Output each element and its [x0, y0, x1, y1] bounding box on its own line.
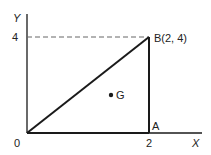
- origin-label: 0: [14, 137, 20, 149]
- point-G-label: G: [116, 89, 125, 101]
- centroid-dot: [109, 93, 113, 97]
- y-tick-4: 4: [12, 31, 18, 43]
- x-tick-2: 2: [146, 137, 152, 149]
- triangle-diagram: Y 4 0 2 X B(2, 4) A G: [0, 0, 211, 155]
- point-B-label: B(2, 4): [154, 32, 187, 44]
- y-axis-label: Y: [13, 12, 21, 24]
- x-axis-label: X: [191, 137, 200, 149]
- segment-OB: [27, 37, 149, 133]
- point-A-label: A: [152, 120, 160, 132]
